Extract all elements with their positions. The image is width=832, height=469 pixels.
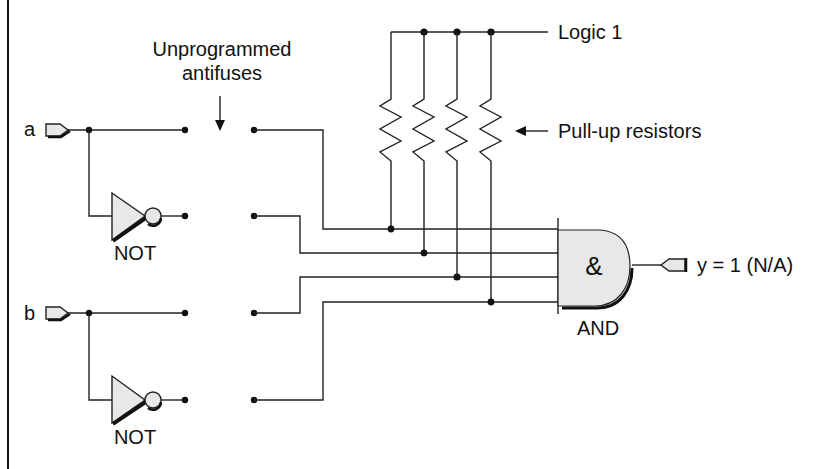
- and-symbol: &: [585, 251, 602, 281]
- and-gate-label: AND: [577, 317, 619, 339]
- input-b-port-icon: [46, 307, 70, 320]
- not-gate-b-label: NOT: [114, 426, 156, 448]
- input-a-label: a: [24, 118, 36, 140]
- not-gate-a: [112, 193, 161, 241]
- not-gate-b: [112, 376, 161, 424]
- antifuses-label-line1: Unprogrammed: [153, 38, 292, 60]
- output-label: y = 1 (N/A): [697, 254, 793, 276]
- logic1-label: Logic 1: [558, 21, 623, 43]
- antifuse-terminal: [182, 127, 188, 133]
- input-b-label: b: [24, 302, 35, 324]
- antifuses-label-line2: antifuses: [182, 62, 262, 84]
- not-gate-a-label: NOT: [114, 242, 156, 264]
- pullup-label: Pull-up resistors: [558, 120, 701, 142]
- pullup-arrow-icon: [515, 126, 548, 136]
- output-port-icon: [661, 258, 686, 272]
- pullup-resistors: [380, 32, 501, 302]
- antifuse-circuit-diagram: Unprogrammed antifuses a NOT b NOT: [0, 0, 832, 469]
- antifuse-arrow-icon: [215, 96, 225, 131]
- input-a-port-icon: [46, 124, 70, 137]
